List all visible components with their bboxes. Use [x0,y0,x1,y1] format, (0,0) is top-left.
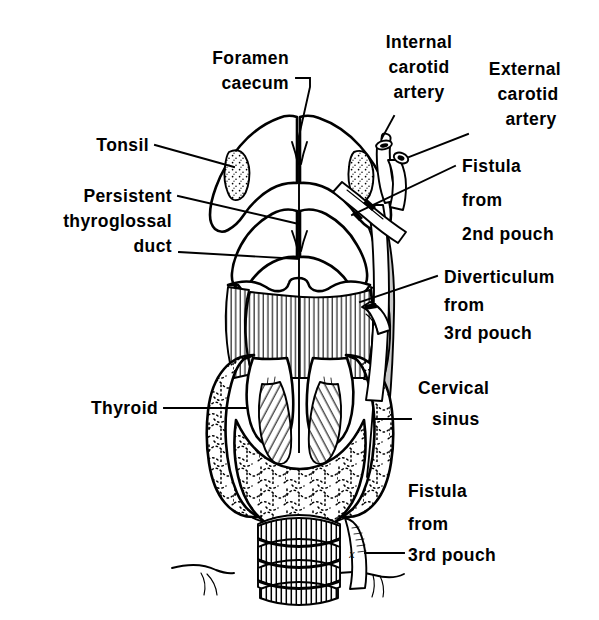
label-foramen-caecum-line2: caecum [221,73,289,93]
label-thyroglossal-line3: duct [133,236,172,256]
label-cervical-sinus: Cervical sinus [418,378,489,429]
leader-external-carotid [409,134,468,157]
label-foramen-caecum-line1: Foramen [212,48,289,68]
label-fistula-3rd-line1: Fistula [408,481,467,501]
label-external-carotid-line3: artery [505,109,556,129]
label-fistula-2nd-pouch: Fistula from 2nd pouch [462,156,554,244]
anatomical-figure: x Foramen caecum Tonsil Persistent thyro… [0,0,599,620]
anatomy-drawing [172,116,410,605]
label-thyroid: Thyroid [91,398,158,418]
label-tonsil: Tonsil [96,135,149,155]
figure-canvas: x Foramen caecum Tonsil Persistent thyro… [0,0,599,620]
label-external-carotid-line1: External [489,59,561,79]
label-fistula-2nd-line1: Fistula [462,156,521,176]
label-internal-carotid-line2: carotid [388,57,449,77]
label-tonsil-line1: Tonsil [96,135,149,155]
label-fistula-2nd-line3: 2nd pouch [462,224,554,244]
label-foramen-caecum: Foramen caecum [212,48,289,93]
label-fistula-3rd-line3: 3rd pouch [408,545,496,565]
label-diverticulum-line2: from [444,295,485,315]
label-internal-carotid-artery: Internal carotid artery [386,32,452,102]
label-external-carotid-artery: External carotid artery [489,59,561,129]
lateral-strap-fold [345,518,366,589]
label-internal-carotid-line3: artery [393,82,444,102]
label-diverticulum-3rd-pouch: Diverticulum from 3rd pouch [444,267,555,343]
label-diverticulum-line3: 3rd pouch [444,323,532,343]
label-fistula-2nd-line2: from [462,190,503,210]
label-fistula-3rd-pouch: Fistula from 3rd pouch [408,481,496,565]
cricothyroid-muscle [259,382,341,464]
tonsil-left [224,150,249,200]
trachea [258,515,340,605]
label-cervical-sinus-line2: sinus [432,409,480,429]
label-internal-carotid-line1: Internal [386,32,452,52]
external-opening-marker: x [348,547,355,561]
leader-tonsil [155,145,234,167]
label-external-carotid-line2: carotid [497,84,558,104]
label-diverticulum-line1: Diverticulum [444,267,555,287]
label-thyroglossal-line1: Persistent [83,186,172,206]
label-thyroglossal-line2: thyroglossal [63,211,172,231]
label-thyroid-line1: Thyroid [91,398,158,418]
label-persistent-thyroglossal-duct: Persistent thyroglossal duct [63,186,172,256]
label-fistula-3rd-line2: from [408,514,449,534]
label-cervical-sinus-line1: Cervical [418,378,489,398]
